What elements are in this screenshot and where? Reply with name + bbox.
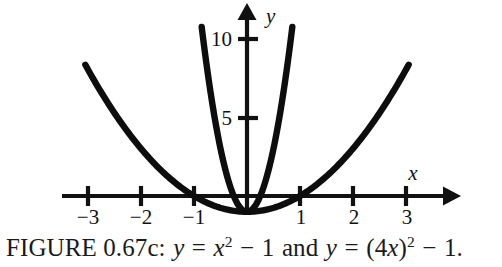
x-axis-arrowhead <box>443 187 461 206</box>
eq2-variable: x <box>387 234 398 261</box>
eq2-exponent: 2 <box>407 233 415 250</box>
eq2-open-paren: ( <box>366 234 374 261</box>
x-axis-label: x <box>407 161 418 185</box>
y-tick-label-5: 5 <box>222 106 233 130</box>
caption-period: . <box>457 234 463 261</box>
eq2-close-paren: ) <box>398 234 406 261</box>
eq2-coefficient: 4 <box>375 234 388 261</box>
graph-plot-area: −3 −2 −1 1 2 3 10 5 x y <box>0 0 502 230</box>
caption-figure-label: FIGURE 0.67c: <box>6 234 166 261</box>
y-axis-arrowhead <box>238 3 257 20</box>
x-tick-label--1: −1 <box>183 205 205 229</box>
eq2-equals: = <box>345 234 359 261</box>
x-tick-label-2: 2 <box>349 205 360 229</box>
x-tick-label-1: 1 <box>296 205 307 229</box>
x-tick-label--2: −2 <box>130 205 152 229</box>
cartesian-graph: −3 −2 −1 1 2 3 10 5 x y <box>0 0 502 230</box>
eq1-exponent: 2 <box>225 233 233 250</box>
x-tick-label-3: 3 <box>402 205 413 229</box>
eq1-equals: = <box>192 234 206 261</box>
eq2-lhs: y <box>326 234 337 261</box>
eq1-constant: 1 <box>262 234 275 261</box>
eq2-minus: − <box>422 234 436 261</box>
figure-caption: FIGURE 0.67c:y=x2−1andy=(4x)2−1. <box>6 231 500 265</box>
eq1-minus: − <box>240 234 254 261</box>
figure-container: −3 −2 −1 1 2 3 10 5 x y FIGURE 0.67c:y=x… <box>0 0 502 267</box>
x-tick-label--3: −3 <box>77 205 99 229</box>
caption-conjunction: and <box>282 234 318 261</box>
eq1-base: x <box>214 234 225 261</box>
eq1-lhs: y <box>173 234 184 261</box>
caption-line: FIGURE 0.67c:y=x2−1andy=(4x)2−1. <box>6 233 463 263</box>
y-axis-label: y <box>264 4 276 28</box>
y-tick-label-10: 10 <box>211 27 232 51</box>
eq2-constant: 1 <box>444 234 457 261</box>
y-axis-group <box>238 3 257 214</box>
